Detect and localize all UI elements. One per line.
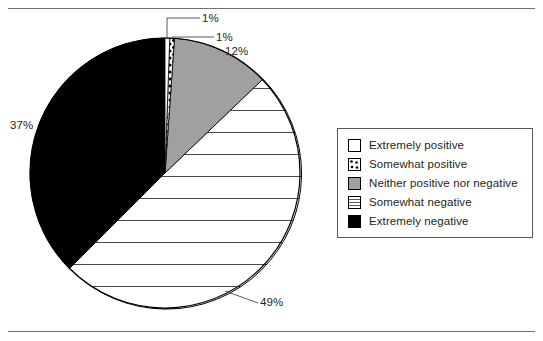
legend-swatch-somewhat-negative xyxy=(348,196,361,209)
leader-line-somewhat-negative xyxy=(225,291,258,303)
legend-label-neither: Neither positive nor negative xyxy=(369,177,518,190)
legend-swatch-extremely-positive xyxy=(348,139,361,152)
legend-label-extremely-positive: Extremely positive xyxy=(369,139,464,152)
hlines-pattern-icon xyxy=(349,197,360,208)
legend-item-somewhat-positive: Somewhat positive xyxy=(348,155,532,174)
legend-label-somewhat-negative: Somewhat negative xyxy=(369,196,472,209)
legend-swatch-neither xyxy=(348,177,361,190)
legend-item-extremely-negative: Extremely negative xyxy=(348,212,532,231)
bottom-rule xyxy=(8,331,535,332)
pct-label-extremely-negative: 37% xyxy=(10,119,33,131)
legend-label-somewhat-positive: Somewhat positive xyxy=(369,158,467,171)
legend-item-neither: Neither positive nor negative xyxy=(348,174,532,193)
pct-label-somewhat-positive: 1% xyxy=(216,31,233,43)
legend: Extremely positive Somewhat positive Nei… xyxy=(337,128,533,238)
leader-line-extremely-positive xyxy=(167,18,200,38)
pct-label-extremely-positive: 1% xyxy=(202,12,219,24)
legend-swatch-extremely-negative xyxy=(348,215,361,228)
pct-label-neither: 12% xyxy=(225,45,248,57)
legend-item-somewhat-negative: Somewhat negative xyxy=(348,193,532,212)
figure-container: 1% 1% 12% 49% 37% Extremely positive Som… xyxy=(0,0,543,341)
pct-label-somewhat-negative: 49% xyxy=(260,296,283,308)
legend-swatch-somewhat-positive xyxy=(348,158,361,171)
legend-label-extremely-negative: Extremely negative xyxy=(369,215,469,228)
leader-line-somewhat-positive xyxy=(172,37,214,38)
legend-item-extremely-positive: Extremely positive xyxy=(348,136,532,155)
dots-pattern-icon xyxy=(349,159,360,170)
